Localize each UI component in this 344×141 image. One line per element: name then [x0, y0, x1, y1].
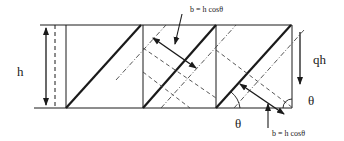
width-label-top: b = h cosθ — [190, 5, 223, 14]
angle-arc-bottom — [231, 92, 240, 108]
width-label-bottom: b = h cosθ — [272, 129, 305, 138]
dashed-perpendiculars — [143, 48, 293, 108]
strut-2 — [143, 25, 216, 108]
width-arrows — [153, 38, 284, 114]
leader-lines — [175, 14, 268, 128]
angle-label-right: θ — [308, 93, 314, 108]
width-arrow-bottom — [240, 84, 284, 114]
leader-top — [175, 14, 182, 44]
strut-3 — [216, 25, 291, 108]
load-label: qh — [313, 52, 327, 67]
dashdot-lines — [116, 25, 304, 108]
truss-shear-diagram: h qh θ θ b = h cosθ b = h cosθ — [0, 0, 344, 141]
height-label: h — [17, 64, 24, 79]
width-arrow-top — [153, 38, 196, 68]
strut-1 — [66, 25, 141, 108]
angle-arcs — [231, 92, 292, 108]
angle-label-bottom: θ — [235, 116, 241, 131]
